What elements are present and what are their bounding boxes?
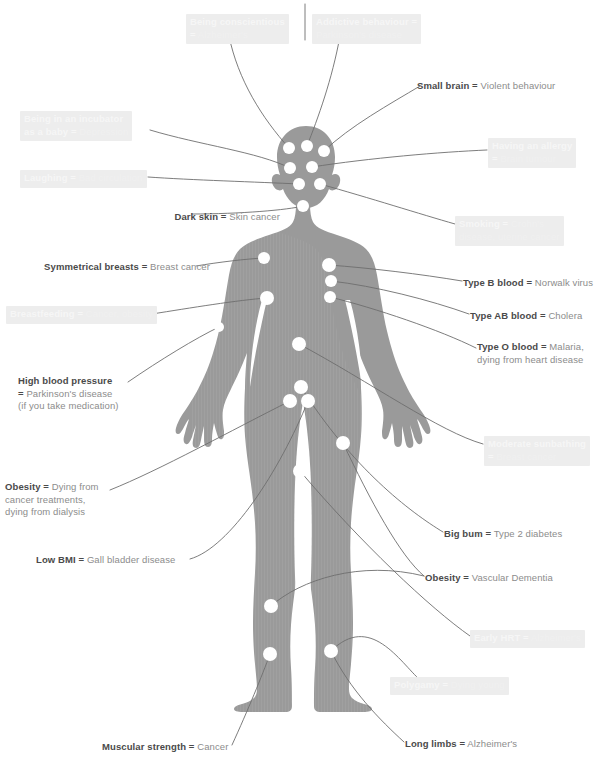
annotation-key: Symmetrical breasts = bbox=[44, 261, 147, 272]
annotation-line: Low BMI = Gall bladder disease bbox=[36, 554, 176, 567]
annotation-line: cancer treatments, bbox=[5, 494, 99, 507]
annotation-key: Having an allergy bbox=[492, 140, 572, 151]
annotation-line: Big bum = Type 2 diabetes bbox=[444, 528, 562, 541]
annotation-key: Type O blood = bbox=[477, 341, 547, 352]
annotation-line: Muscular strength = Cancer bbox=[102, 741, 228, 754]
annotation-line: Obesity = Dying from bbox=[5, 481, 99, 494]
annotation-key: Being conscientious bbox=[190, 16, 285, 27]
annotation-key: Polygamy = bbox=[394, 679, 448, 690]
label-layer: Being conscientious= Alzheimer'sAddictiv… bbox=[0, 0, 599, 779]
annotation-line: = Alzheimer's bbox=[190, 29, 285, 42]
annotation-line: Moderate sunbathing bbox=[488, 438, 586, 451]
annotation-line: Addictive behaviour = bbox=[316, 16, 417, 29]
annotation-key: Type B blood = bbox=[463, 277, 532, 288]
annotation-key: Laughing = bbox=[24, 172, 76, 183]
annotation-high-blood-pressure: High blood pressure= Parkinson's disease… bbox=[18, 375, 119, 413]
annotation-line: Polygamy = Dying young bbox=[394, 679, 505, 692]
annotation-line: Dark skin = Skin cancer bbox=[80, 211, 280, 224]
annotation-line: Symmetrical breasts = Breast cancer bbox=[10, 261, 210, 274]
annotation-early-hrt: Early HRT = Alzheimer's bbox=[470, 630, 585, 648]
annotation-line: Laughing = Bad circulation bbox=[24, 172, 143, 185]
annotation-value: Bad circulation bbox=[76, 172, 143, 183]
annotation-line: Being in an incubator bbox=[24, 113, 128, 126]
annotation-type-o-blood: Type O blood = Malaria,dying from heart … bbox=[477, 341, 584, 366]
annotation-muscular-strength: Muscular strength = Cancer bbox=[102, 741, 228, 754]
annotation-key: Moderate sunbathing bbox=[488, 438, 586, 449]
annotation-value: Dying from bbox=[49, 481, 99, 492]
annotation-value: Breast cancer bbox=[494, 451, 557, 462]
annotation-value: Breast cancer bbox=[147, 261, 210, 272]
annotation-key-cont: as a baby = bbox=[24, 126, 77, 137]
annotation-value: Norwalk virus bbox=[532, 277, 593, 288]
annotation-value: Skin cancer bbox=[227, 211, 280, 222]
top-cut-text bbox=[238, 0, 378, 6]
annotation-line: as a baby = Depression bbox=[24, 126, 128, 139]
annotation-value: Gall bladder disease bbox=[84, 554, 175, 565]
annotation-being-in-an-incubator: Being in an incubatoras a baby = Depress… bbox=[20, 111, 132, 141]
annotation-line: = Parkinson's disease bbox=[18, 388, 119, 401]
annotation-key: Breastfeeding = bbox=[10, 308, 83, 319]
annotation-value: Depression bbox=[77, 126, 129, 137]
annotation-value: Crohn's bbox=[508, 218, 544, 229]
annotation-line: Obesity = Vascular Dementia bbox=[425, 572, 553, 585]
annotation-line: Smoking = Crohn's bbox=[459, 218, 560, 231]
annotation-key: Obesity = bbox=[5, 481, 49, 492]
annotation-type-ab-blood: Type AB blood = Cholera bbox=[470, 310, 582, 323]
annotation-value: Cholera bbox=[546, 310, 583, 321]
annotation-line: Breastfeeding = Cancer, obesity bbox=[10, 308, 153, 321]
annotation-key: Big bum = bbox=[444, 528, 491, 539]
annotation-obesity-vascular-dementia: Obesity = Vascular Dementia bbox=[425, 572, 553, 585]
annotation-being-conscientious: Being conscientious= Alzheimer's bbox=[186, 14, 289, 44]
annotation-polygamy: Polygamy = Dying young bbox=[390, 677, 509, 695]
annotation-line: = Brain tumour bbox=[492, 153, 572, 166]
annotation-line: High blood pressure bbox=[18, 375, 119, 388]
annotation-low-bmi: Low BMI = Gall bladder disease bbox=[36, 554, 176, 567]
annotation-line: Being conscientious bbox=[190, 16, 285, 29]
annotation-type-b-blood: Type B blood = Norwalk virus bbox=[463, 277, 593, 290]
annotation-key: Dark skin = bbox=[174, 211, 226, 222]
annotation-value: Vascular Dementia bbox=[469, 572, 553, 583]
annotation-value: Cancer, obesity bbox=[83, 308, 153, 319]
annotation-key: High blood pressure bbox=[18, 375, 112, 386]
annotation-laughing: Laughing = Bad circulation bbox=[20, 170, 147, 188]
annotation-value: Malaria, bbox=[547, 341, 584, 352]
annotation-having-an-allergy: Having an allergy= Brain tumour bbox=[488, 138, 576, 168]
annotation-line: Parkinson's disease bbox=[316, 29, 417, 42]
annotation-key: Obesity = bbox=[425, 572, 469, 583]
annotation-long-limbs: Long limbs = Alzheimer's bbox=[405, 738, 517, 751]
annotation-addictive-behaviour: Addictive behaviour =Parkinson's disease bbox=[312, 14, 421, 44]
annotation-key: Type AB blood = bbox=[470, 310, 546, 321]
annotation-big-bum: Big bum = Type 2 diabetes bbox=[444, 528, 562, 541]
annotation-key: Being in an incubator bbox=[24, 113, 123, 124]
annotation-line: Type AB blood = Cholera bbox=[470, 310, 582, 323]
annotation-line: dying from dialysis bbox=[5, 506, 99, 519]
annotation-line: Early HRT = Alzheimer's bbox=[474, 632, 581, 645]
annotation-value: Violent behaviour bbox=[478, 80, 556, 91]
annotation-value: Alzheimer's bbox=[529, 632, 581, 643]
annotation-line: (if you take medication) bbox=[18, 400, 119, 413]
infographic-canvas: Being conscientious= Alzheimer'sAddictiv… bbox=[0, 0, 599, 779]
annotation-dark-skin: Dark skin = Skin cancer bbox=[80, 211, 280, 224]
annotation-key: Addictive behaviour = bbox=[316, 16, 417, 27]
annotation-key: Long limbs = bbox=[405, 738, 465, 749]
annotation-line: Small brain = Violent behaviour bbox=[417, 80, 555, 93]
annotation-value: Alzheimer's bbox=[196, 29, 248, 40]
annotation-key: Small brain = bbox=[417, 80, 478, 91]
annotation-value: Cancer bbox=[194, 741, 228, 752]
annotation-line: = Breast cancer bbox=[488, 451, 586, 464]
annotation-key: Low BMI = bbox=[36, 554, 84, 565]
annotation-key: Smoking = bbox=[459, 218, 508, 229]
annotation-line: disease, uterine cancer bbox=[459, 231, 560, 244]
annotation-symmetrical-breasts: Symmetrical breasts = Breast cancer bbox=[10, 261, 210, 274]
annotation-value: Alzheimer's bbox=[465, 738, 517, 749]
annotation-value: Parkinson's disease bbox=[24, 388, 113, 399]
annotation-line: Type O blood = Malaria, bbox=[477, 341, 584, 354]
annotation-line: Long limbs = Alzheimer's bbox=[405, 738, 517, 751]
annotation-key: Early HRT = bbox=[474, 632, 529, 643]
annotation-line: dying from heart disease bbox=[477, 354, 584, 367]
annotation-obesity-dialysis: Obesity = Dying fromcancer treatments,dy… bbox=[5, 481, 99, 519]
annotation-breastfeeding: Breastfeeding = Cancer, obesity bbox=[6, 306, 157, 324]
annotation-small-brain: Small brain = Violent behaviour bbox=[417, 80, 555, 93]
annotation-value: Dying young bbox=[448, 679, 505, 690]
annotation-key: Muscular strength = bbox=[102, 741, 194, 752]
